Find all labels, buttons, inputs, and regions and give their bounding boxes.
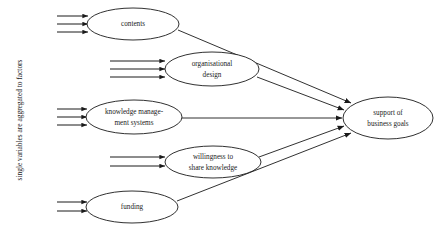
side-label-group: single variables are aggregated to facto… <box>15 59 24 180</box>
node-knowledge-management-systems-label-line1: knowledge manage- <box>105 108 164 116</box>
feeder-arrows-knowledge-management-systems <box>57 109 87 125</box>
node-funding-label: funding <box>121 203 144 211</box>
feeder-arrows-funding <box>57 202 87 211</box>
node-support-of-business-goals-shape[interactable] <box>343 97 433 139</box>
node-organisational-design[interactable]: organisational design <box>165 52 259 86</box>
node-support-of-business-goals[interactable]: support of business goals <box>343 97 433 139</box>
node-knowledge-management-systems[interactable]: knowledge manage- ment systems <box>86 100 182 134</box>
node-willingness-to-share-knowledge-label-line1: willingness to <box>193 153 234 161</box>
node-funding[interactable]: funding <box>86 191 178 223</box>
node-willingness-to-share-knowledge-shape[interactable] <box>165 146 261 178</box>
node-organisational-design-label-line2: design <box>203 71 222 79</box>
feeder-arrows-organisational-design <box>110 61 165 77</box>
node-support-of-business-goals-label-line1: support of <box>373 109 403 117</box>
side-label-text: single variables are aggregated to facto… <box>15 59 24 180</box>
node-knowledge-management-systems-shape[interactable] <box>86 100 182 134</box>
factor-model-diagram: single variables are aggregated to facto… <box>0 0 447 234</box>
node-support-of-business-goals-label-line2: business goals <box>367 120 409 128</box>
feeder-arrows-willingness-to-share-knowledge <box>110 157 165 166</box>
node-knowledge-management-systems-label-line2: ment systems <box>115 119 154 127</box>
node-contents-label: contents <box>121 20 145 28</box>
node-organisational-design-shape[interactable] <box>165 52 259 86</box>
node-contents[interactable]: contents <box>87 8 179 40</box>
node-willingness-to-share-knowledge[interactable]: willingness to share knowledge <box>165 146 261 178</box>
feeder-arrows-contents <box>57 16 88 32</box>
node-organisational-design-label-line1: organisational <box>192 60 233 68</box>
node-willingness-to-share-knowledge-label-line2: share knowledge <box>189 164 238 172</box>
diagram-canvas: single variables are aggregated to facto… <box>0 0 447 234</box>
